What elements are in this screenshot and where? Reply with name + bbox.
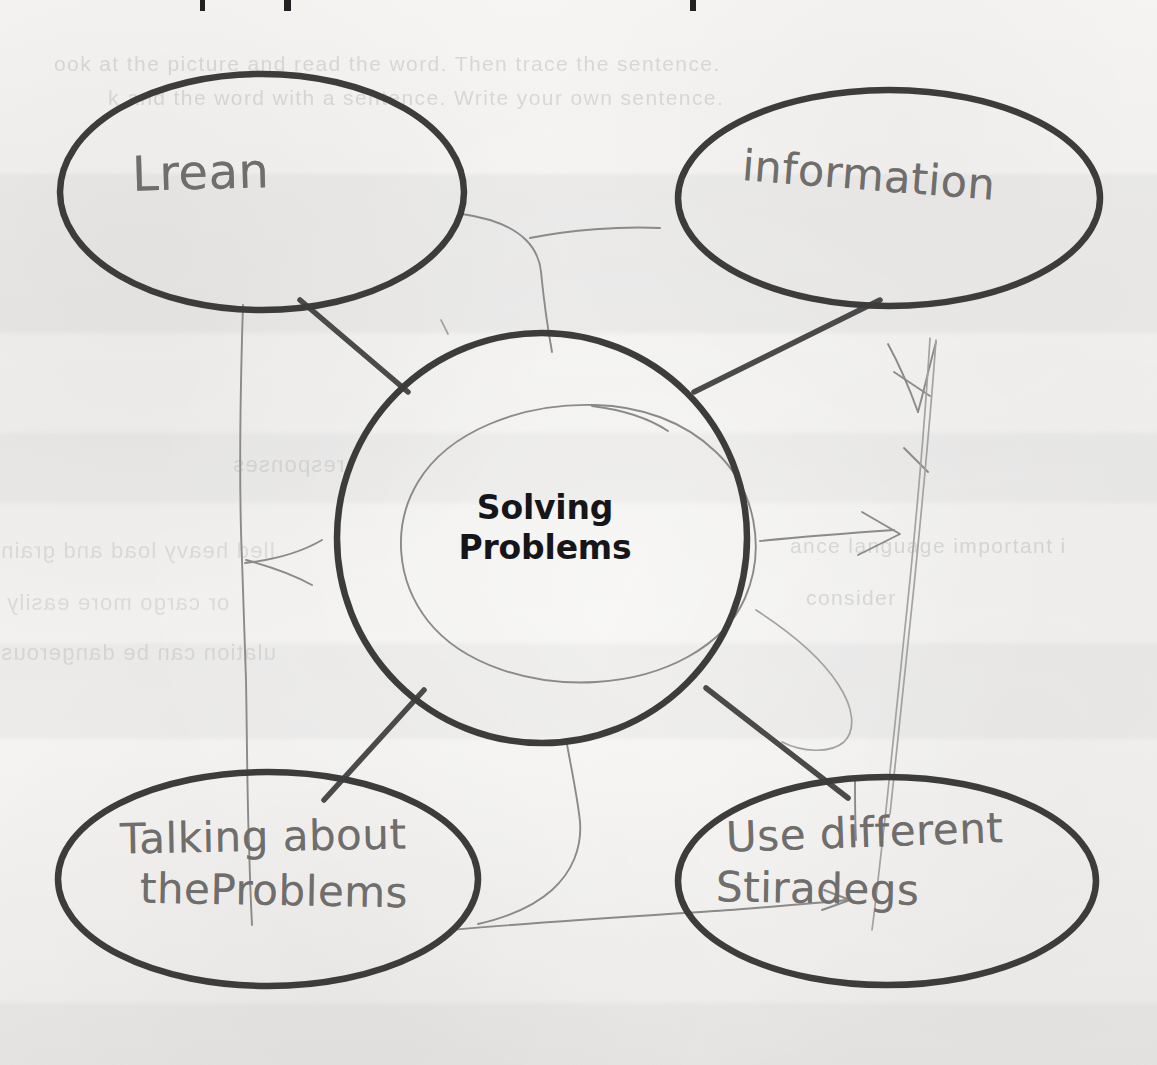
worksheet-page: ook at the picture and read the word. Th… (0, 0, 1157, 1065)
pencil-stray-top-arc (530, 227, 660, 238)
connector-group (300, 300, 880, 800)
pencil-tick-top-center (441, 320, 448, 334)
pencil-oval-overshoot (592, 406, 668, 431)
pencil-tick-right-2 (904, 448, 928, 472)
pencil-long-vertical-right (872, 338, 930, 930)
pencil-arrowhead-right (858, 512, 900, 555)
connector-center-to-top-left (300, 300, 408, 392)
pencil-stray-vertical-left (240, 305, 252, 925)
pencil-curve-bottom (478, 739, 580, 924)
pencil-oval-inside-center (401, 405, 756, 683)
pencil-stray-top (462, 214, 541, 272)
pencil-spur-left-lower (246, 560, 312, 585)
pencil-stray-top-tail (541, 272, 552, 352)
pencil-long-vertical-right-2 (890, 340, 936, 814)
web-diagram-canvas (0, 0, 1157, 1065)
pencil-spur-left (245, 540, 322, 563)
connector-center-to-top-right (694, 300, 880, 392)
bubble-center (337, 333, 747, 743)
bubble-top-left (60, 74, 464, 310)
bubble-bottom-left (58, 772, 478, 986)
pencil-stroke-above-bottom-right (855, 776, 856, 840)
pencil-arrow-right (760, 530, 894, 541)
bubble-outline-group (58, 74, 1100, 986)
bubble-top-right (678, 90, 1100, 306)
pencil-loop-right (756, 610, 852, 750)
